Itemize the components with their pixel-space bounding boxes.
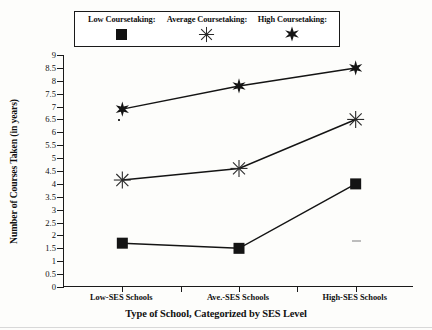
x-axis-tick <box>181 286 182 292</box>
legend-marker-average <box>165 26 249 42</box>
y-axis-tick <box>57 235 64 236</box>
y-axis-title-text: Number of Courses Taken (in years) <box>8 99 19 244</box>
legend-row: Low Coursetaking: Average Coursetaking: <box>75 14 339 42</box>
y-axis-tick <box>57 132 64 133</box>
y-axis-tick <box>57 145 64 146</box>
y-axis-tick-label: 2.5 <box>45 218 56 227</box>
y-axis-tick-label: 4.5 <box>45 167 56 176</box>
x-axis-tick <box>356 286 357 292</box>
y-axis-tick <box>57 248 64 249</box>
page-rule <box>0 327 432 328</box>
y-axis-tick <box>57 184 64 185</box>
asterisk-marker-icon <box>198 26 215 43</box>
y-axis-tick-label: 3 <box>52 205 56 214</box>
axes-layer: 00.511.522.533.544.555.566.577.588.59 <box>64 55 413 286</box>
plot-area: 00.511.522.533.544.555.566.577.588.59 <box>63 55 413 287</box>
y-axis-title: Number of Courses Taken (in years) <box>6 55 20 287</box>
x-axis-tick <box>297 286 298 292</box>
x-axis-tick-label: High-SES Schools <box>322 294 386 302</box>
y-axis-tick-label: 6.5 <box>45 115 56 124</box>
y-axis-tick <box>57 287 64 288</box>
y-axis-tick-label: 0 <box>52 283 56 292</box>
legend-item-high: High Coursetaking: <box>250 14 334 42</box>
y-axis-tick <box>57 261 64 262</box>
y-axis-tick-label: 3.5 <box>45 192 56 201</box>
y-axis-tick <box>57 55 64 56</box>
y-axis-tick <box>57 223 64 224</box>
x-axis-tick-label: Low-SES Schools <box>90 294 153 302</box>
y-axis-tick <box>57 119 64 120</box>
chart-figure: Low Coursetaking: Average Coursetaking: <box>0 0 432 330</box>
legend-label-low: Low Coursetaking: <box>88 14 155 25</box>
x-axis-tick <box>122 286 123 292</box>
y-axis-tick-label: 8.5 <box>45 64 56 73</box>
x-axis-tick-label: Ave.-SES Schools <box>207 294 269 302</box>
scan-artifact <box>352 240 361 242</box>
x-axis-tick <box>239 286 240 292</box>
y-axis-tick <box>57 210 64 211</box>
legend-marker-low <box>79 26 163 42</box>
legend-marker-high <box>250 26 334 42</box>
y-axis-tick-label: 1.5 <box>45 244 56 253</box>
y-axis-tick <box>57 107 64 108</box>
legend-label-high: High Coursetaking: <box>258 14 327 25</box>
y-axis-tick-label: 4 <box>52 180 56 189</box>
y-axis-tick <box>57 197 64 198</box>
y-axis-tick <box>57 81 64 82</box>
y-axis-tick-label: 5.5 <box>45 141 56 150</box>
filled-square-marker-icon <box>116 29 127 40</box>
y-axis-tick-label: 8 <box>52 76 56 85</box>
y-axis-tick-label: 2 <box>52 231 56 240</box>
y-axis-tick <box>57 94 64 95</box>
y-axis-tick-label: 9 <box>52 51 56 60</box>
y-axis-tick-label: 1 <box>52 257 56 266</box>
y-axis-tick <box>57 171 64 172</box>
y-axis-tick-label: 7 <box>52 102 56 111</box>
y-axis-tick-label: 6 <box>52 128 56 137</box>
legend-item-average: Average Coursetaking: <box>165 14 249 42</box>
chart-legend: Low Coursetaking: Average Coursetaking: <box>74 11 340 47</box>
filled-star-marker-icon <box>284 26 300 42</box>
y-axis-tick <box>57 274 64 275</box>
scan-artifact <box>118 119 120 121</box>
legend-item-low: Low Coursetaking: <box>79 14 163 42</box>
y-axis-tick-label: 5 <box>52 154 56 163</box>
x-axis-title: Type of School, Categorized by SES Level <box>0 308 432 319</box>
y-axis-tick-label: 7.5 <box>45 89 56 98</box>
y-axis-tick <box>57 68 64 69</box>
legend-label-average: Average Coursetaking: <box>167 14 247 25</box>
y-axis-tick <box>57 158 64 159</box>
y-axis-tick-label: 0.5 <box>45 270 56 279</box>
